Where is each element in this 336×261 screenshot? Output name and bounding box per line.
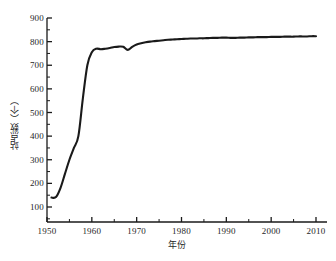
- x-tick-label: 2010: [300, 226, 332, 236]
- y-tick-label: 100: [20, 202, 44, 212]
- x-tick-label: 1980: [166, 226, 198, 236]
- chart-figure: 100200300400500600700800900 195019601970…: [0, 0, 336, 261]
- y-tick-label: 700: [20, 60, 44, 70]
- y-tick-label: 500: [20, 108, 44, 118]
- y-tick-label: 400: [20, 131, 44, 141]
- y-axis-title: 站点数（个）: [9, 96, 19, 150]
- y-axis-major-ticks: [47, 18, 52, 207]
- y-tick-label: 600: [20, 84, 44, 94]
- line-chart-canvas: [0, 0, 336, 261]
- x-tick-label: 1950: [31, 226, 63, 236]
- data-series-line: [51, 36, 316, 198]
- y-tick-label: 300: [20, 155, 44, 165]
- x-axis-major-ticks: [47, 217, 316, 222]
- x-tick-label: 1970: [121, 226, 153, 236]
- y-tick-label: 200: [20, 178, 44, 188]
- x-tick-label: 2000: [255, 226, 287, 236]
- x-tick-label: 1960: [76, 226, 108, 236]
- y-tick-label: 800: [20, 37, 44, 47]
- x-tick-label: 1990: [210, 226, 242, 236]
- y-tick-label: 900: [20, 13, 44, 23]
- x-axis-title: 年份: [168, 240, 186, 250]
